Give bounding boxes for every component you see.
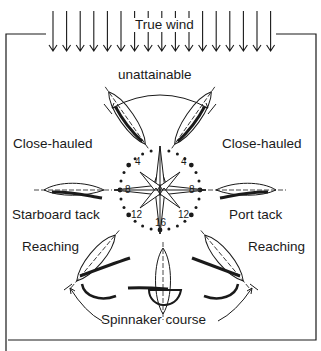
compass-dot [141,153,144,156]
wind-arrow-icon [239,11,247,51]
wind-arrow-icon [76,11,84,51]
reaching-right-sail [192,258,240,276]
reaching-left-sail [80,258,130,276]
boat-starboard-tack [34,183,112,198]
wind-arrow-icon [253,11,261,51]
compass-dot [134,220,137,223]
compass-number-right: 8 [189,185,195,195]
compass-dot [198,197,201,200]
wind-arrow-icon [90,11,98,51]
compass-dot [150,150,153,153]
wind-arrow-icon [49,11,57,51]
wind-arrow-icon [212,11,220,51]
points-of-sail-diagram [0,0,321,351]
wind-arrow-icon [267,11,275,51]
compass-number-bottom-left: 12 [131,210,142,220]
compass-dot [176,225,179,228]
label-unattainable: unattainable [118,68,192,82]
compass-number-left: 8 [125,185,131,195]
compass-number-bottom-right: 12 [178,210,189,220]
compass-dot [183,220,186,223]
compass-dot [176,153,179,156]
compass-dot [189,163,194,168]
compass-dot [195,171,198,174]
boat-close-hauled-left [99,83,154,153]
wind-arrow-icon [103,11,111,51]
wind-arrow-icon [226,11,234,51]
boat-spinnaker-course [128,242,181,320]
boat-close-hauled-right [165,83,220,153]
label-starboard-tack: Starboard tack [12,208,100,222]
label-port-tack: Port tack [229,208,282,222]
compass-dot [126,163,131,168]
compass-dot [123,171,126,174]
compass-dot [167,150,170,153]
label-close-hauled-left: Close-hauled [13,137,93,151]
compass-dot [120,197,123,200]
compass-number-top-left: 4 [135,157,141,167]
wind-arrow-icon [63,11,71,51]
wind-label: True wind [133,18,196,32]
reaching-right-spinnaker [204,284,238,298]
boat-port-tack [208,183,286,198]
wind-arrow-icon [117,11,125,51]
wind-arrow-icon [199,11,207,51]
compass-dot [120,180,123,183]
label-spinnaker-course: Spinnaker course [101,313,206,327]
label-reaching-left: Reaching [22,240,79,254]
compass-dot [150,228,153,231]
compass-number-top-right: 4 [181,157,187,167]
compass-dot [123,206,126,209]
compass-dot [195,206,198,209]
boat-reaching-right [195,226,255,293]
compass-dot [167,228,170,231]
compass-dot [189,213,194,218]
reaching-left-spinnaker [82,284,116,298]
label-close-hauled-right: Close-hauled [222,137,302,151]
boat-reaching-left [65,226,125,293]
compass-number-bottom: 16 [155,218,166,228]
compass-dot [141,225,144,228]
unattainable-arc [104,95,216,114]
compass-dot [198,180,201,183]
label-reaching-right: Reaching [248,240,305,254]
